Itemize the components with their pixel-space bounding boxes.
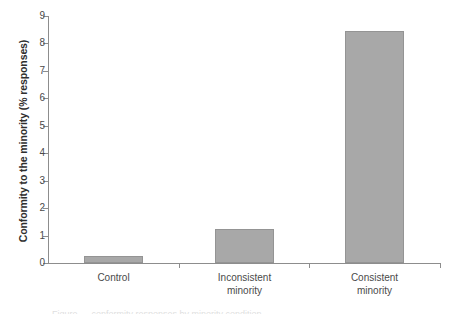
y-tick: 2 xyxy=(48,208,49,209)
y-tick: 0 xyxy=(48,263,49,264)
y-tick: 4 xyxy=(48,153,49,154)
y-tick-label: 2 xyxy=(39,201,45,214)
x-category-label-line: minority xyxy=(179,285,310,298)
y-tick: 8 xyxy=(48,43,49,44)
plot-area: 0123456789 ControlInconsistentminorityCo… xyxy=(48,16,440,264)
y-tick: 9 xyxy=(48,16,49,17)
bar-chart-figure: Conformity to the minority (% responses)… xyxy=(0,0,450,314)
figure-caption-fragment: Figure — conformity responses by minorit… xyxy=(52,309,382,314)
y-tick-label: 9 xyxy=(39,9,45,22)
bar xyxy=(215,229,274,263)
y-axis-title: Conformity to the minority (% responses) xyxy=(17,26,29,256)
y-tick: 1 xyxy=(48,236,49,237)
y-tick: 3 xyxy=(48,181,49,182)
y-tick: 5 xyxy=(48,126,49,127)
x-separator-tick xyxy=(179,263,180,268)
y-tick-label: 6 xyxy=(39,91,45,104)
x-category-label: Consistentminority xyxy=(309,272,440,297)
y-tick-label: 5 xyxy=(39,119,45,132)
y-tick-label: 4 xyxy=(39,146,45,159)
x-category-label-line: minority xyxy=(309,285,440,298)
y-tick-label: 7 xyxy=(39,64,45,77)
y-tick-label: 1 xyxy=(39,229,45,242)
x-axis-line xyxy=(48,263,440,264)
bar xyxy=(345,31,404,263)
y-axis-line xyxy=(48,16,49,264)
bar xyxy=(84,256,143,263)
y-tick-label: 8 xyxy=(39,36,45,49)
x-separator-tick xyxy=(440,263,441,268)
x-category-label: Control xyxy=(48,272,179,285)
y-tick: 7 xyxy=(48,71,49,72)
x-category-label: Inconsistentminority xyxy=(179,272,310,297)
x-category-label-line: Control xyxy=(48,272,179,285)
x-category-label-line: Inconsistent xyxy=(179,272,310,285)
x-category-label-line: Consistent xyxy=(309,272,440,285)
y-tick-label: 3 xyxy=(39,174,45,187)
y-tick: 6 xyxy=(48,98,49,99)
x-separator-tick xyxy=(309,263,310,268)
y-tick-label: 0 xyxy=(39,256,45,269)
